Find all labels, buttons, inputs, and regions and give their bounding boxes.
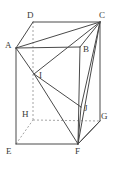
edge-a-b	[16, 47, 80, 48]
geometry-svg	[0, 0, 116, 169]
edge-e-h	[16, 120, 33, 144]
edge-i-f	[34, 74, 78, 144]
vertex-label-g: G	[101, 112, 108, 121]
edge-a-d	[16, 22, 33, 48]
edge-h-g	[33, 120, 100, 121]
vertex-label-c: C	[99, 11, 105, 20]
hidden-edge-group	[16, 22, 100, 144]
vertex-label-j: J	[84, 104, 88, 113]
edge-c-f	[78, 22, 100, 144]
vertex-label-e: E	[6, 147, 12, 156]
vertex-label-i: I	[39, 71, 42, 80]
geometry-figure-canvas: ABCDEFGHIJ	[0, 0, 116, 169]
vertex-label-f: F	[75, 147, 80, 156]
edge-a-i	[16, 48, 34, 74]
vertex-label-h: H	[22, 110, 29, 119]
solid-edge-group	[16, 22, 100, 144]
vertex-label-b: B	[83, 45, 89, 54]
vertex-label-d: D	[27, 11, 34, 20]
vertex-label-a: A	[5, 41, 12, 50]
